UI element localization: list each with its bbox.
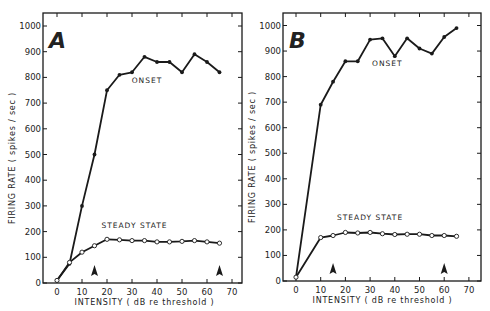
- data-point-open: [343, 230, 347, 234]
- data-point-open: [393, 232, 397, 236]
- y-tick-label: 600: [265, 123, 281, 133]
- y-tick-label: 700: [25, 98, 41, 108]
- data-point-open: [55, 278, 59, 282]
- y-tick-label: 600: [25, 124, 41, 134]
- data-point-open: [430, 233, 434, 237]
- panel-letter: B: [289, 28, 306, 53]
- series-label: ONSET: [372, 59, 403, 68]
- x-tick-label: 60: [439, 285, 450, 295]
- data-point-filled: [455, 26, 459, 30]
- data-point-open: [205, 240, 209, 244]
- data-point-open: [180, 239, 184, 243]
- y-tick-label: 500: [25, 150, 41, 160]
- arrowhead-icon: [216, 265, 223, 276]
- data-point-filled: [344, 59, 348, 63]
- series-label: STEADY STATE: [101, 221, 167, 230]
- data-point-open: [117, 238, 121, 242]
- data-point-filled: [393, 54, 397, 58]
- x-tick-label: 50: [414, 285, 425, 295]
- y-tick-label: 0: [276, 276, 281, 286]
- data-point-open: [368, 230, 372, 234]
- arrowhead-icon: [330, 263, 337, 274]
- y-tick-label: 700: [265, 97, 281, 107]
- x-tick-label: 20: [340, 285, 351, 295]
- data-point-open: [217, 241, 221, 245]
- y-tick-label: 200: [25, 227, 41, 237]
- data-point-filled: [442, 35, 446, 39]
- figure: 0100200300400500600700800900100001020304…: [0, 0, 490, 311]
- x-tick-label: 30: [365, 285, 376, 295]
- y-tick-label: 1000: [259, 21, 281, 31]
- data-point-filled: [168, 60, 172, 64]
- data-point-open: [405, 232, 409, 236]
- x-axis-title: INTENSITY ( dB re threshold ): [312, 296, 452, 305]
- x-axis-title: INTENSITY ( dB re threshold ): [75, 298, 215, 307]
- series-label: STEADY STATE: [337, 213, 403, 222]
- data-point-filled: [193, 52, 197, 56]
- data-point-open: [319, 235, 323, 239]
- data-point-open: [67, 260, 71, 264]
- data-point-open: [331, 233, 335, 237]
- data-point-open: [167, 240, 171, 244]
- data-point-filled: [205, 60, 209, 64]
- data-point-filled: [105, 88, 109, 92]
- y-axis-title: FIRING RATE ( spikes / sec ): [248, 91, 257, 223]
- y-tick-label: 900: [265, 46, 281, 56]
- x-tick-label: 40: [152, 287, 163, 297]
- panel-b: 0100200300400500600700800900100001020304…: [248, 13, 481, 305]
- data-point-open: [417, 232, 421, 236]
- data-point-filled: [405, 36, 409, 40]
- panel-letter: A: [47, 28, 66, 53]
- x-tick-label: 10: [315, 285, 326, 295]
- y-tick-label: 800: [25, 72, 41, 82]
- data-point-filled: [368, 38, 372, 42]
- data-point-filled: [155, 60, 159, 64]
- data-point-filled: [80, 204, 84, 208]
- data-point-filled: [331, 80, 335, 84]
- y-tick-label: 900: [25, 47, 41, 57]
- y-tick-label: 400: [265, 174, 281, 184]
- data-point-filled: [319, 103, 323, 107]
- data-point-open: [454, 234, 458, 238]
- arrowhead-icon: [91, 265, 98, 276]
- data-point-open: [105, 237, 109, 241]
- data-point-filled: [130, 70, 134, 74]
- data-point-open: [294, 275, 298, 279]
- data-point-filled: [218, 70, 222, 74]
- plot-frame: [283, 13, 481, 281]
- data-point-open: [142, 238, 146, 242]
- data-point-open: [130, 238, 134, 242]
- x-tick-label: 70: [227, 287, 238, 297]
- data-point-filled: [381, 36, 385, 40]
- y-tick-label: 400: [25, 175, 41, 185]
- panel-a: 0100200300400500600700800900100001020304…: [8, 13, 242, 307]
- series-line-steady-state: [57, 239, 220, 280]
- x-tick-label: 50: [177, 287, 188, 297]
- data-point-open: [380, 232, 384, 236]
- y-tick-label: 1000: [19, 21, 41, 31]
- data-point-filled: [118, 73, 122, 77]
- x-tick-label: 30: [127, 287, 138, 297]
- y-tick-label: 100: [265, 250, 281, 260]
- x-tick-label: 0: [293, 285, 298, 295]
- data-point-filled: [93, 153, 97, 157]
- data-point-filled: [418, 47, 422, 51]
- data-point-open: [442, 233, 446, 237]
- x-tick-label: 60: [202, 287, 213, 297]
- y-tick-label: 500: [265, 148, 281, 158]
- data-point-filled: [143, 55, 147, 59]
- series-label: ONSET: [132, 76, 163, 85]
- x-tick-label: 40: [389, 285, 400, 295]
- y-tick-label: 100: [25, 252, 41, 262]
- arrowhead-icon: [441, 263, 448, 274]
- y-tick-label: 200: [265, 225, 281, 235]
- y-axis-title: FIRING RATE ( spikes / sec ): [8, 92, 17, 224]
- data-point-open: [155, 240, 159, 244]
- data-point-filled: [430, 52, 434, 56]
- y-tick-label: 300: [265, 199, 281, 209]
- data-point-open: [192, 238, 196, 242]
- x-tick-label: 70: [463, 285, 474, 295]
- x-tick-label: 10: [77, 287, 88, 297]
- data-point-filled: [180, 70, 184, 74]
- series-line-onset: [57, 54, 220, 280]
